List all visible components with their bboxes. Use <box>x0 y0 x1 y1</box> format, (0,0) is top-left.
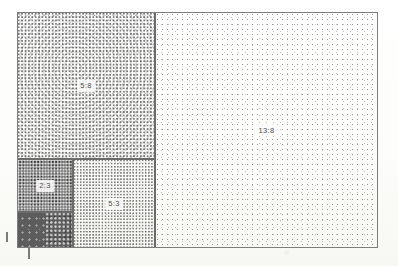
tile-13-8[interactable]: 13:8 <box>155 12 378 248</box>
tile-13-8-label: 13:8 <box>255 124 277 136</box>
tile-5-3[interactable]: 5:3 <box>73 159 155 248</box>
tile-unlabeled-dark[interactable] <box>17 212 73 248</box>
divider-horizontal-left <box>17 158 155 160</box>
tile-2-3-label: 2:3 <box>36 180 54 192</box>
tile-unlabeled-dark-texture-right <box>45 212 73 248</box>
tile-5-3-label: 5:3 <box>105 198 123 210</box>
tile-2-3[interactable]: 2:3 <box>17 159 73 212</box>
mosaic-plot: 13:8 5:8 5:3 2:3 <box>0 0 398 266</box>
tile-5-8[interactable]: 5:8 <box>17 12 155 159</box>
tile-5-8-label: 5:8 <box>77 80 95 92</box>
tick-left <box>6 232 8 242</box>
tick-bottom <box>28 248 30 259</box>
divider-vertical-main <box>154 12 156 248</box>
divider-vertical-lowerleft <box>72 159 74 248</box>
divider-horizontal-darkblock <box>17 211 73 213</box>
